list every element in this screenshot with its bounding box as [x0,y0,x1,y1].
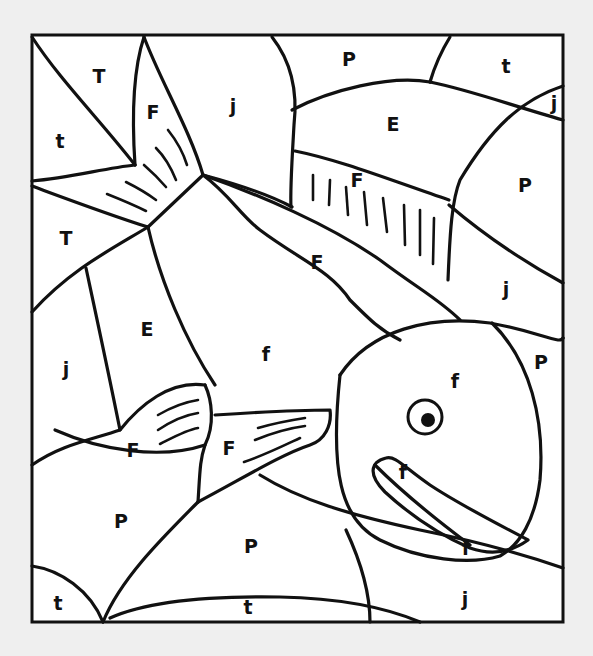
region-label: T [93,65,106,87]
region-label: f [399,461,408,483]
region-label: t [55,130,64,152]
paper [32,35,563,622]
region-label: f [262,343,271,365]
region-label: f [462,537,471,559]
region-label: f [451,370,460,392]
region-label: P [518,174,532,196]
region-label: F [311,251,324,273]
region-label: j [62,358,70,380]
region-label: F [351,169,364,191]
fish-line-drawing: TtFjPtjEFPTFjEjfPfFFfPPfjtt [0,0,593,656]
region-label: T [60,227,73,249]
region-label: P [342,48,356,70]
region-label: P [534,351,548,373]
region-label: j [229,95,237,117]
region-label: t [501,55,510,77]
region-label: E [141,318,154,340]
region-label: F [127,439,140,461]
region-label: t [53,592,62,614]
region-label: j [550,92,558,114]
region-label: F [223,437,236,459]
coloring-page: TtFjPtjEFPTFjEjfPfFFfPPfjtt [0,0,593,656]
region-label: F [147,101,160,123]
region-label: t [243,596,252,618]
region-label: P [244,535,258,557]
region-label: j [502,278,510,300]
region-label: j [461,588,469,610]
region-label: E [387,113,400,135]
region-label: P [114,510,128,532]
